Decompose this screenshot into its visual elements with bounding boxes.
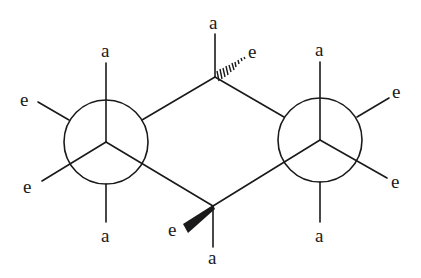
left-ring-bond-to-bottom-carbon [106, 142, 213, 206]
left-equatorial-upper-bond [38, 102, 69, 120]
label-top-carbon-axial: a [209, 12, 218, 33]
newman-chair-diagram: a e e a a e [0, 0, 421, 278]
label-left-top-axial: a [101, 40, 110, 61]
bottom-carbon: e a [168, 140, 320, 268]
hashed-wedge-bond [217, 57, 245, 81]
right-equatorial-upper-bond [357, 98, 389, 117]
label-right-lower-equatorial: e [391, 171, 399, 192]
bottom-carbon-ring-bond-right [213, 140, 320, 206]
left-newman-projection: a e e a [20, 40, 215, 246]
right-newman-projection: a e e a [278, 39, 400, 246]
top-carbon: a e [209, 12, 284, 117]
label-left-upper-equatorial: e [20, 89, 28, 110]
top-carbon-ring-bond-right [215, 77, 284, 117]
label-bottom-carbon-axial: a [208, 247, 217, 268]
label-top-carbon-equatorial: e [248, 41, 256, 62]
diagram-svg: a e e a a e [0, 0, 421, 278]
right-equatorial-lower-bond [320, 140, 387, 178]
label-right-top-axial: a [315, 39, 324, 60]
label-right-upper-equatorial: e [392, 81, 400, 102]
left-ring-bond-to-top-carbon [142, 77, 215, 120]
label-bottom-carbon-equatorial: e [168, 219, 176, 240]
left-equatorial-lower-bond [42, 142, 106, 181]
solid-wedge-bond [183, 205, 215, 233]
label-left-lower-equatorial: e [23, 176, 31, 197]
label-right-bottom-axial: a [315, 225, 324, 246]
label-left-bottom-axial: a [101, 225, 110, 246]
